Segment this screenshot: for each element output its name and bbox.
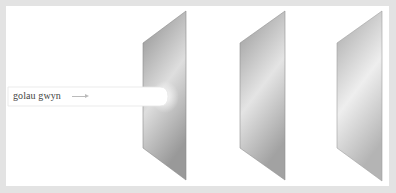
diagram-frame: golau gwyn [0,0,396,193]
beam-label: golau gwyn [13,90,61,101]
right-arrow-icon [72,96,86,97]
